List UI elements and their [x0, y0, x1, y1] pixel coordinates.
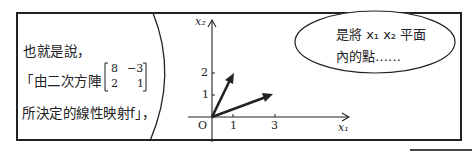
next-panel-edge [410, 149, 472, 151]
matrix-cell: 1 [137, 77, 144, 90]
speech-bubble-line-1: 是將 x₁ x₂ 平面 [336, 24, 426, 43]
matrix-cell: −3 [127, 62, 143, 75]
origin-label: O [198, 119, 207, 132]
x1-axis-label: x₁ [338, 121, 349, 134]
x-tick-label: 1 [230, 119, 237, 132]
matrix: 8 −3 2 1 [103, 62, 149, 92]
y-tick-label: 1 [202, 88, 209, 101]
x2-axis-label: x₂ [195, 15, 206, 28]
matrix-cell: 8 [111, 62, 118, 75]
x-tick-label: 3 [271, 119, 278, 132]
speech-bubble-line-2: 內的點…… [336, 46, 401, 65]
narration-line-2: 「由二次方陣 [20, 70, 101, 90]
narration-line-3: 所決定的線性映射f」， [22, 102, 155, 122]
vector-3-1-arrowhead-icon [262, 93, 273, 102]
y-tick-label: 2 [201, 66, 208, 79]
matrix-cell: 2 [111, 77, 118, 90]
narration-line-1: 也就是說， [23, 40, 91, 60]
